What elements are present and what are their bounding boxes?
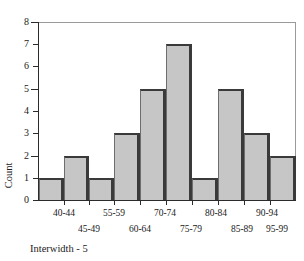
y-tick-2 (31, 156, 38, 157)
bar-45-49 (64, 156, 89, 201)
x-tick-6 (192, 200, 193, 205)
y-tick-7 (33, 44, 38, 45)
y-axis-label-7: 7 (0, 39, 29, 49)
x-tick-7 (218, 200, 219, 205)
bar-70-74 (140, 89, 166, 200)
bar-75-79 (166, 44, 192, 200)
bar-80-84 (192, 178, 218, 200)
bar-60-64 (114, 133, 140, 200)
y-axis-title: Count (3, 151, 14, 201)
x-tick-4 (140, 200, 141, 205)
x-tick-1 (64, 200, 65, 205)
x-axis-label-80-84: 80-84 (191, 208, 241, 218)
x-tick-3 (114, 200, 115, 205)
x-axis-label-75-79: 75-79 (166, 224, 216, 234)
bar-90-94 (244, 133, 270, 200)
x-axis-label-40-44: 40-44 (39, 208, 89, 218)
x-axis-label-60-64: 60-64 (115, 224, 165, 234)
bar-55-59 (89, 178, 114, 200)
histogram-chart: 8 7 6 5 4 3 2 1 0 Count 40-44 55-59 70-7… (0, 0, 304, 261)
bar-40-44 (39, 178, 64, 200)
y-axis-label-6: 6 (0, 61, 29, 71)
x-axis-label-90-94: 90-94 (242, 208, 292, 218)
y-axis-label-3: 3 (0, 128, 29, 138)
x-tick-5 (166, 200, 167, 205)
bar-series (39, 22, 296, 200)
bar-85-89 (218, 89, 244, 200)
x-axis-label-70-74: 70-74 (140, 208, 190, 218)
x-axis-label-45-49: 45-49 (64, 224, 114, 234)
y-axis-label-4: 4 (0, 106, 29, 116)
y-tick-5 (31, 89, 38, 90)
x-tick-9 (270, 200, 271, 205)
y-tick-0 (33, 200, 38, 201)
x-tick-2 (89, 200, 90, 205)
y-tick-3 (33, 133, 38, 134)
y-tick-6 (33, 66, 38, 67)
y-axis-label-5: 5 (0, 84, 29, 94)
y-tick-1 (33, 178, 38, 179)
x-axis-title: Interwidth - 5 (30, 243, 88, 254)
y-tick-8 (31, 22, 38, 23)
x-axis-line (38, 200, 296, 201)
y-axis-label-8: 8 (0, 17, 29, 27)
x-tick-8 (244, 200, 245, 205)
bar-95-99 (270, 156, 296, 201)
y-tick-4 (33, 111, 38, 112)
x-axis-label-95-99: 95-99 (252, 224, 302, 234)
x-axis-label-55-59: 55-59 (89, 208, 139, 218)
